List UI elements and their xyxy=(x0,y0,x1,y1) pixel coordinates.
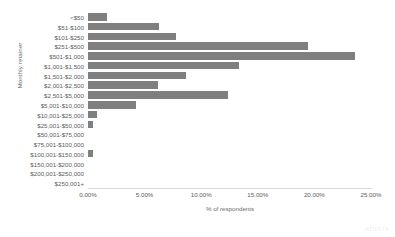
bar xyxy=(88,13,107,21)
x-axis-tick-label: 5.00% xyxy=(136,191,154,198)
x-axis-tick-label: 15.00% xyxy=(247,191,268,198)
bar xyxy=(88,150,93,158)
x-axis-tick-label: 20.00% xyxy=(304,191,325,198)
y-axis-tick-labels: <$50$51-$100$101-$250$251-$500$501-$1,00… xyxy=(8,12,86,188)
bar xyxy=(88,42,308,50)
bar xyxy=(88,101,136,109)
watermark: ahrefs xyxy=(365,223,389,233)
bar xyxy=(88,23,159,31)
y-axis-tick-label: $250,001+ xyxy=(55,178,84,189)
bar xyxy=(88,111,97,119)
bar xyxy=(88,33,176,41)
bar xyxy=(88,52,355,60)
bar-chart: Monthly retainer <$50$51-$100$101-$250$2… xyxy=(0,0,395,237)
x-axis-tick-label: 0.00% xyxy=(79,191,97,198)
bar xyxy=(88,72,186,80)
bar xyxy=(88,91,228,99)
x-axis-tick-label: 10.00% xyxy=(191,191,212,198)
plot-area xyxy=(88,12,371,188)
x-axis-title: % of respondents xyxy=(88,205,372,212)
x-axis-tick-label: 25.00% xyxy=(361,191,382,198)
bar xyxy=(88,62,239,70)
bar xyxy=(88,81,158,89)
x-axis-line xyxy=(88,188,372,189)
bar xyxy=(88,121,93,129)
